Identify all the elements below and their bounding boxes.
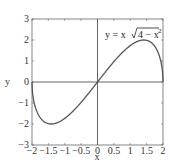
x-tick-label: −1 [59, 145, 70, 156]
svg-text:y = x: y = x [105, 29, 126, 40]
y-tick-label: 2 [24, 34, 29, 45]
svg-text:4 − x: 4 − x [138, 29, 159, 40]
y-tick-labels: −3−2−10123 [18, 13, 29, 150]
y-tick-label: −2 [18, 118, 29, 129]
x-tick-label: −0.5 [72, 145, 90, 156]
equation-radicand: 4 − x [138, 29, 159, 40]
y-tick-label: 3 [24, 13, 29, 24]
svg-text:2: 2 [158, 27, 162, 35]
function-plot: −2−1.5−1−0.500.511.52 −3−2−10123 x y y =… [0, 0, 170, 162]
x-tick-label: −1.5 [39, 145, 57, 156]
y-tick-label: 0 [24, 76, 29, 87]
y-axis-label: y [5, 76, 10, 87]
x-axis-label: x [95, 151, 100, 162]
x-tick-label: 2 [161, 145, 166, 156]
x-tick-label: 1.5 [140, 145, 153, 156]
x-tick-label: 0.5 [108, 145, 121, 156]
equation-exponent: 2 [158, 27, 162, 35]
y-tick-label: 1 [24, 55, 29, 66]
equation-prefix: y = x [105, 29, 126, 40]
equation-annotation: y = x 4 − x 2 [105, 27, 162, 40]
x-tick-label: 1 [128, 145, 133, 156]
y-tick-label: −3 [18, 139, 29, 150]
y-tick-label: −1 [18, 97, 29, 108]
